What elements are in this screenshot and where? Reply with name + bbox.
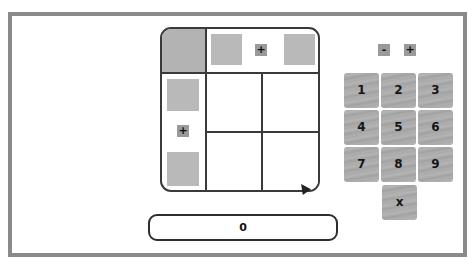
minus-button[interactable]: - (378, 44, 390, 56)
key-clear[interactable]: x (382, 185, 417, 220)
key-3[interactable]: 3 (418, 73, 453, 108)
key-7[interactable]: 7 (344, 147, 379, 182)
key-4[interactable]: 4 (344, 110, 379, 145)
key-2[interactable]: 2 (381, 73, 416, 108)
top-add-button[interactable]: + (255, 44, 267, 56)
top-factor-box-2[interactable] (284, 34, 315, 65)
left-factor-box-1[interactable] (167, 79, 199, 111)
grid-top-header: + (207, 29, 318, 74)
grid-cell-r1c2[interactable] (263, 74, 318, 131)
grid-left-header: + (162, 74, 207, 190)
key-1[interactable]: 1 (344, 73, 379, 108)
answer-display: 0 (148, 214, 338, 241)
key-8[interactable]: 8 (381, 147, 416, 182)
plus-button[interactable]: + (404, 44, 416, 56)
key-9[interactable]: 9 (418, 147, 453, 182)
left-add-button[interactable]: + (177, 125, 189, 137)
grid-divider-horizontal (207, 131, 318, 133)
grid-cell-r2c1[interactable] (207, 133, 261, 190)
key-6[interactable]: 6 (418, 110, 453, 145)
left-factor-box-2[interactable] (167, 152, 199, 186)
grid-corner-cell (162, 29, 207, 74)
grid-cell-r1c1[interactable] (207, 74, 261, 131)
key-5[interactable]: 5 (381, 110, 416, 145)
top-factor-box-1[interactable] (211, 34, 242, 65)
multiplication-grid: + + (160, 27, 320, 192)
grid-cell-r2c2[interactable] (263, 133, 318, 190)
